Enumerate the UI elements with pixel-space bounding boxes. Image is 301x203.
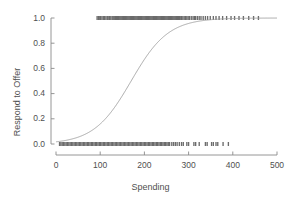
rug-series [60,142,229,146]
x-tick-label: 500 [257,161,297,170]
rug-series [97,16,258,20]
logistic-regression-chart: 0100200300400500 0.00.20.40.60.81.0 Resp… [0,0,301,203]
x-tick-label: 300 [169,161,209,170]
x-tick-label: 100 [80,161,120,170]
x-tick-label: 200 [124,161,164,170]
y-axis-title: Respond to Offer [12,56,22,148]
fitted-logistic-curve [56,18,277,142]
x-tick-label: 400 [213,161,253,170]
x-tick-label: 0 [36,161,76,170]
y-axis-title-wrapper: Respond to Offer [0,0,22,203]
x-axis-title: Spending [0,182,301,192]
plot-canvas [0,0,301,203]
